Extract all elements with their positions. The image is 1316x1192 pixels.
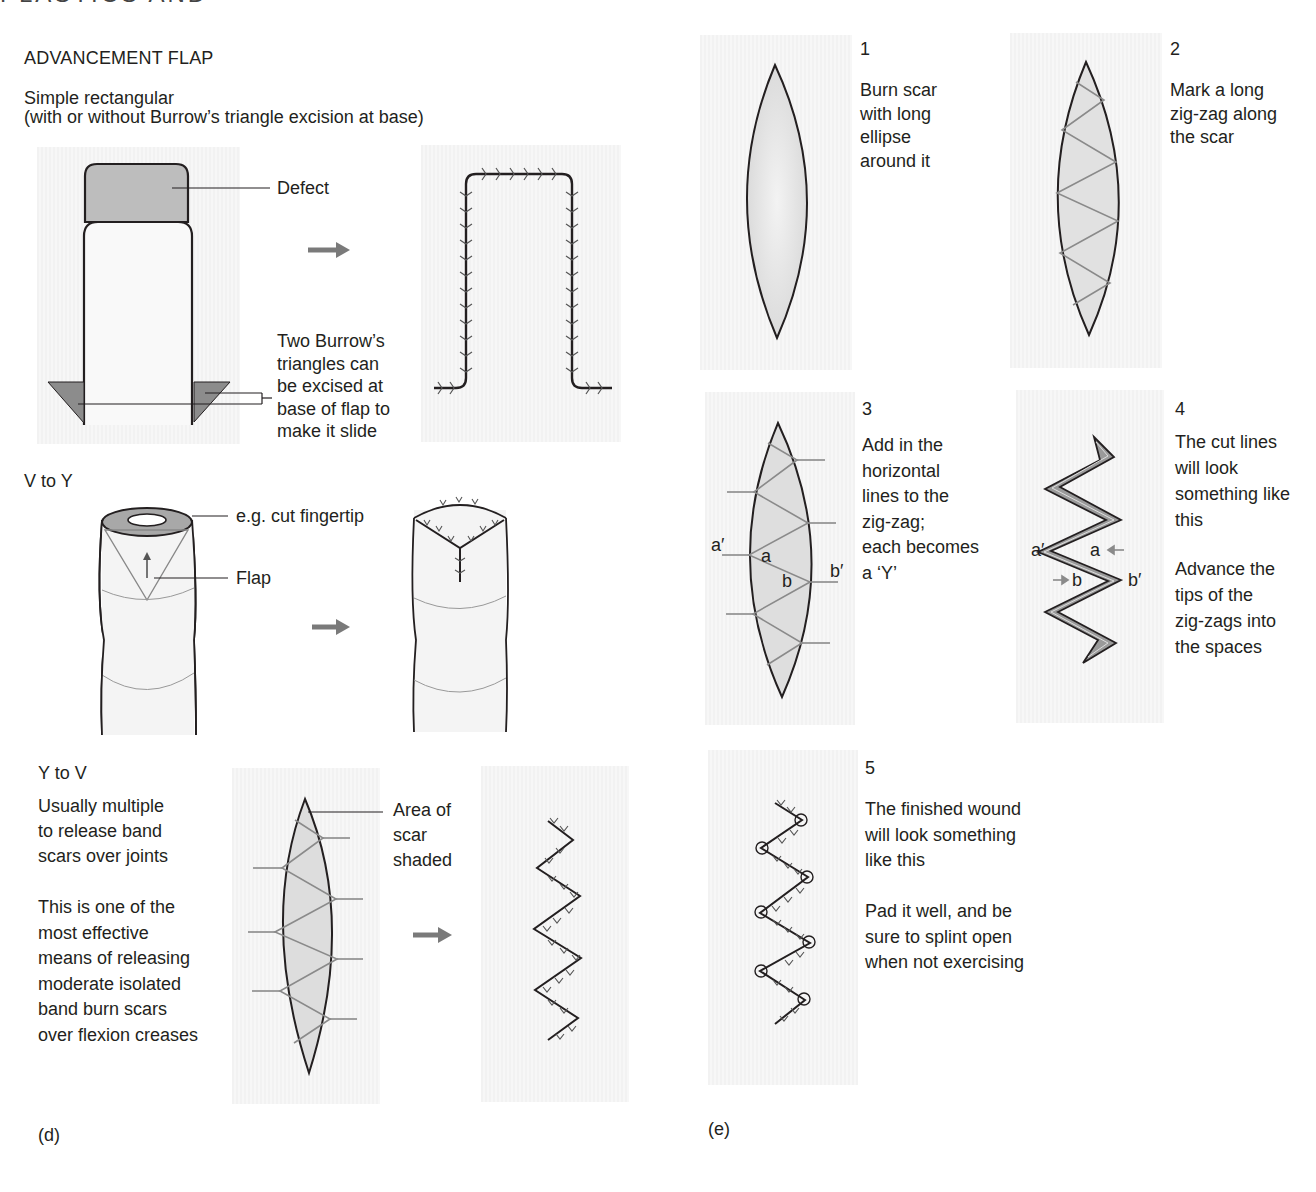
- step-5-finished-wound-diagram: [0, 0, 1316, 1192]
- figure-label-e: (e): [708, 1118, 730, 1141]
- step-5-number: 5: [865, 757, 875, 780]
- step-5-text: The finished wound will look something l…: [865, 797, 1021, 874]
- step-5-text-2: Pad it well, and be sure to splint open …: [865, 899, 1024, 976]
